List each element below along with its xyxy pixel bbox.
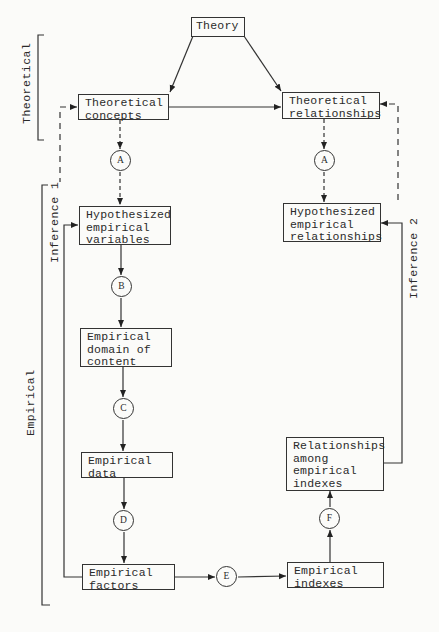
step-c: C: [113, 398, 134, 419]
step-a-right: A: [314, 150, 335, 171]
hypothesized-empirical-variables-node: Hypothesized empirical variables: [79, 206, 171, 245]
step-f: F: [319, 508, 340, 529]
step-d: D: [113, 510, 134, 531]
step-b: B: [111, 276, 132, 297]
empirical-data-node: Empirical data: [81, 452, 173, 478]
inference-2-label: Inference 2: [407, 218, 420, 299]
empirical-domain-of-content-node: Empirical domain of content: [80, 328, 172, 367]
theoretical-relationships-node: Theoretical relationships: [282, 92, 380, 119]
theoretical-bracket: [38, 35, 44, 140]
step-a-left: A: [110, 150, 131, 171]
theory-node: Theory: [191, 17, 245, 37]
hypothesized-empirical-relationships-node: Hypothesized empirical relationships: [283, 203, 381, 242]
empirical-indexes-node: Empirical indexes: [287, 562, 384, 588]
theoretical-concepts-node: Theoretical concepts: [78, 94, 169, 120]
empirical-label: Empirical: [24, 369, 37, 436]
empirical-factors-node: Empirical factors: [82, 564, 175, 590]
relationships-among-empirical-indexes-node: Relationships among empirical indexes: [286, 437, 384, 491]
step-e: E: [216, 566, 237, 587]
theoretical-label: Theoretical: [20, 43, 33, 124]
inference-1-label: Inference 1: [48, 182, 61, 263]
